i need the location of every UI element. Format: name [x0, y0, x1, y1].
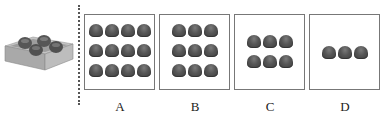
dome-icon	[137, 64, 151, 77]
option-b-label: B	[159, 99, 231, 115]
dome-row	[172, 44, 218, 57]
dome-row	[172, 24, 218, 37]
dome-row	[89, 64, 151, 77]
dome-icon	[89, 44, 103, 57]
dome-icon	[121, 24, 135, 37]
option-d-box[interactable]	[309, 14, 380, 90]
dome-icon	[121, 44, 135, 57]
dome-icon	[263, 55, 277, 68]
option-a-label: A	[84, 99, 156, 115]
dome-icon	[137, 24, 151, 37]
dome-icon	[188, 44, 202, 57]
dome-icon	[279, 55, 293, 68]
dotted-divider	[78, 5, 80, 105]
option-d-label: D	[309, 99, 381, 115]
dome-icon	[121, 64, 135, 77]
option-b-box[interactable]	[159, 14, 230, 90]
dome-icon	[338, 46, 352, 59]
dome-row	[89, 24, 151, 37]
dome-grid	[310, 46, 379, 59]
dome-grid	[160, 24, 229, 77]
dome-grid	[85, 24, 154, 77]
option-c-box[interactable]	[234, 14, 305, 90]
dome-icon	[105, 24, 119, 37]
dome-icon	[204, 64, 218, 77]
dome-icon	[137, 44, 151, 57]
dome-row	[247, 55, 293, 68]
dome-icon	[105, 64, 119, 77]
option-c-label: C	[234, 99, 306, 115]
dome-row	[89, 44, 151, 57]
dome-icon	[279, 35, 293, 48]
dome-icon	[172, 64, 186, 77]
dome-icon	[172, 24, 186, 37]
dome-row	[247, 35, 293, 48]
reference-tray	[3, 34, 75, 74]
option-a-box[interactable]	[84, 14, 155, 90]
dome-icon	[204, 44, 218, 57]
dome-icon	[354, 46, 368, 59]
dome-icon	[204, 24, 218, 37]
dome-row	[172, 64, 218, 77]
dome-icon	[322, 46, 336, 59]
dome-grid	[235, 35, 304, 68]
dome-row	[322, 46, 368, 59]
dome-icon	[89, 64, 103, 77]
dome-icon	[105, 44, 119, 57]
dome-icon	[172, 44, 186, 57]
tray-with-domes-icon	[3, 34, 75, 74]
dome-icon	[247, 35, 261, 48]
dome-icon	[247, 55, 261, 68]
dome-icon	[188, 64, 202, 77]
dome-icon	[188, 24, 202, 37]
dome-icon	[263, 35, 277, 48]
dome-icon	[89, 24, 103, 37]
